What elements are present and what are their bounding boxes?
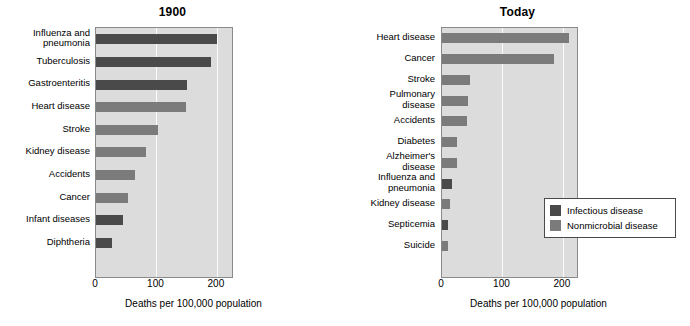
category-label: Accidents [0, 169, 90, 180]
bar-row [96, 73, 187, 96]
bar-row [442, 236, 448, 257]
category-labels-1900: Influenza and pneumoniaTuberculosisGastr… [0, 27, 90, 276]
category-label: Septicemia [345, 219, 435, 230]
panel-title-1900: 1900 [0, 5, 345, 19]
category-label: Diphtheria [0, 237, 90, 248]
bar-row [442, 215, 448, 236]
category-label: Kidney disease [345, 198, 435, 209]
legend: Infectious disease Nonmicrobial disease [544, 198, 676, 238]
legend-swatch-nonmicrobial-icon [550, 220, 561, 231]
category-label: Cancer [345, 53, 435, 64]
panel-title-today: Today [345, 5, 690, 19]
legend-swatch-infectious-icon [550, 205, 561, 216]
bar-row [96, 232, 112, 255]
bar [442, 75, 470, 85]
panel-today: Today Heart diseaseCancerStrokePulmonary… [345, 0, 690, 326]
category-labels-today: Heart diseaseCancerStrokePulmonary disea… [345, 27, 435, 276]
bar [96, 147, 146, 157]
bar-row [442, 28, 569, 49]
bar-row [442, 132, 457, 153]
bar-row [96, 119, 158, 142]
category-label: Suicide [345, 240, 435, 251]
bar-row [96, 51, 211, 74]
bar-series-1900 [96, 28, 232, 277]
legend-label-nonmicrobial: Nonmicrobial disease [567, 220, 658, 231]
category-label: Heart disease [345, 32, 435, 43]
bar [442, 33, 569, 43]
bar [442, 116, 467, 126]
category-label: Infant diseases [0, 214, 90, 225]
category-label: Influenza and pneumonia [0, 28, 90, 49]
bar [96, 125, 158, 135]
bar [96, 193, 128, 203]
bar [96, 80, 187, 90]
bar-row [442, 194, 450, 215]
bar-row [96, 28, 217, 51]
bar [96, 34, 217, 44]
category-label: Pulmonary disease [345, 89, 435, 110]
x-tick-label: 200 [208, 278, 225, 289]
bar-row [442, 70, 470, 91]
x-axis-ticks-1900: 0100200 [0, 278, 345, 292]
plot-area-today [441, 27, 578, 278]
x-tick-label: 100 [493, 278, 510, 289]
category-label: Cancer [0, 192, 90, 203]
plot-area-1900 [95, 27, 233, 278]
bar-row [442, 173, 452, 194]
bar [442, 54, 554, 64]
bar-row [96, 141, 146, 164]
bar [96, 170, 135, 180]
category-label: Heart disease [0, 101, 90, 112]
bar-row [442, 153, 457, 174]
bar-row [96, 96, 186, 119]
category-label: Accidents [345, 115, 435, 126]
legend-item-nonmicrobial: Nonmicrobial disease [550, 218, 669, 233]
bar-row [96, 186, 128, 209]
category-label: Alzheimer's disease [345, 151, 435, 172]
bar-row [96, 209, 123, 232]
bar [96, 57, 211, 67]
x-axis-ticks-today: 0100200 [345, 278, 690, 292]
x-tick-label: 100 [147, 278, 164, 289]
category-label: Diabetes [345, 136, 435, 147]
bar [442, 199, 450, 209]
x-tick-label: 200 [554, 278, 571, 289]
category-label: Gastroenteritis [0, 78, 90, 89]
bar [442, 96, 468, 106]
bar [96, 215, 123, 225]
bar-row [96, 164, 135, 187]
bar [96, 238, 112, 248]
bar-series-today [442, 28, 577, 277]
x-axis-label-1900: Deaths per 100,000 population [0, 298, 345, 309]
legend-label-infectious: Infectious disease [567, 205, 643, 216]
category-label: Stroke [0, 124, 90, 135]
bar [442, 220, 448, 230]
category-label: Stroke [345, 74, 435, 85]
legend-item-infectious: Infectious disease [550, 203, 669, 218]
bar [442, 137, 457, 147]
category-label: Influenza and pneumonia [345, 172, 435, 193]
bar [442, 241, 448, 251]
category-label: Kidney disease [0, 146, 90, 157]
bar-row [442, 49, 554, 70]
bar [442, 158, 457, 168]
dual-bar-chart-figure: 1900 Influenza and pneumoniaTuberculosis… [0, 0, 690, 326]
bar [96, 102, 186, 112]
x-axis-label-today: Deaths per 100,000 population [345, 298, 690, 309]
panel-1900: 1900 Influenza and pneumoniaTuberculosis… [0, 0, 345, 326]
category-label: Tuberculosis [0, 56, 90, 67]
bar [442, 179, 452, 189]
x-tick-label: 0 [438, 278, 444, 289]
x-tick-label: 0 [92, 278, 98, 289]
bar-row [442, 90, 468, 111]
bar-row [442, 111, 467, 132]
